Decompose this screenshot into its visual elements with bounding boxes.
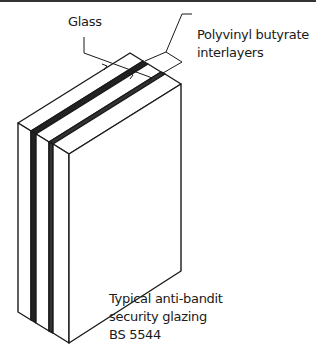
caption-line3: BS 5544 <box>109 327 161 343</box>
interlayers-label-line2: interlayers <box>197 45 263 61</box>
caption-line2: security glazing <box>109 309 207 325</box>
glass-label: Glass <box>68 14 102 30</box>
interlayers-label-line1: Polyvinyl butyrate <box>197 27 309 43</box>
caption-line1: Typical anti-bandit <box>109 291 223 307</box>
interlayers-leader <box>166 14 192 62</box>
